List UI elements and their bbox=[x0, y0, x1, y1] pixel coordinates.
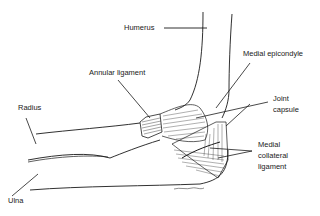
leader-medial-epicondyle bbox=[216, 63, 250, 108]
leader-radius bbox=[26, 118, 36, 144]
leader-annular-ligament bbox=[118, 80, 150, 118]
leader-joint-capsule-a bbox=[196, 102, 268, 118]
label-humerus: Humerus bbox=[124, 24, 154, 32]
medial-collateral-ligament-shape bbox=[172, 122, 228, 178]
label-mcl-line1: Medial bbox=[258, 141, 280, 149]
radius-lower-edge bbox=[28, 140, 160, 160]
leader-ulna bbox=[12, 174, 38, 196]
label-annular-ligament: Annular ligament bbox=[89, 69, 145, 77]
humerus-outline-lateral bbox=[175, 12, 203, 110]
leader-mcl-a bbox=[210, 148, 252, 151]
label-joint-capsule-line1: Joint bbox=[273, 95, 289, 103]
label-ulna: Ulna bbox=[8, 197, 23, 205]
annular-ligament-hatching bbox=[142, 118, 161, 134]
mcl-hatching bbox=[174, 124, 224, 176]
label-mcl-line3: ligament bbox=[258, 163, 286, 171]
humerus-outline-medial bbox=[222, 14, 232, 118]
label-radius: Radius bbox=[18, 104, 41, 112]
artist-signature bbox=[174, 188, 204, 189]
elbow-anatomy-diagram: Humerus Medial epicondyle Annular ligame… bbox=[0, 0, 320, 216]
elbow-illustration bbox=[0, 0, 320, 216]
leader-joint-capsule-b bbox=[226, 104, 250, 126]
joint-capsule-shape bbox=[160, 105, 208, 142]
leader-mcl-b bbox=[218, 151, 252, 158]
label-mcl-line2: collateral bbox=[258, 152, 288, 160]
radius-upper-edge bbox=[36, 123, 140, 134]
label-joint-capsule-line2: capsule bbox=[273, 106, 299, 114]
joint-capsule-hatching bbox=[163, 110, 206, 139]
ulna-lower-edge bbox=[30, 150, 228, 190]
label-medial-epicondyle: Medial epicondyle bbox=[243, 50, 303, 58]
